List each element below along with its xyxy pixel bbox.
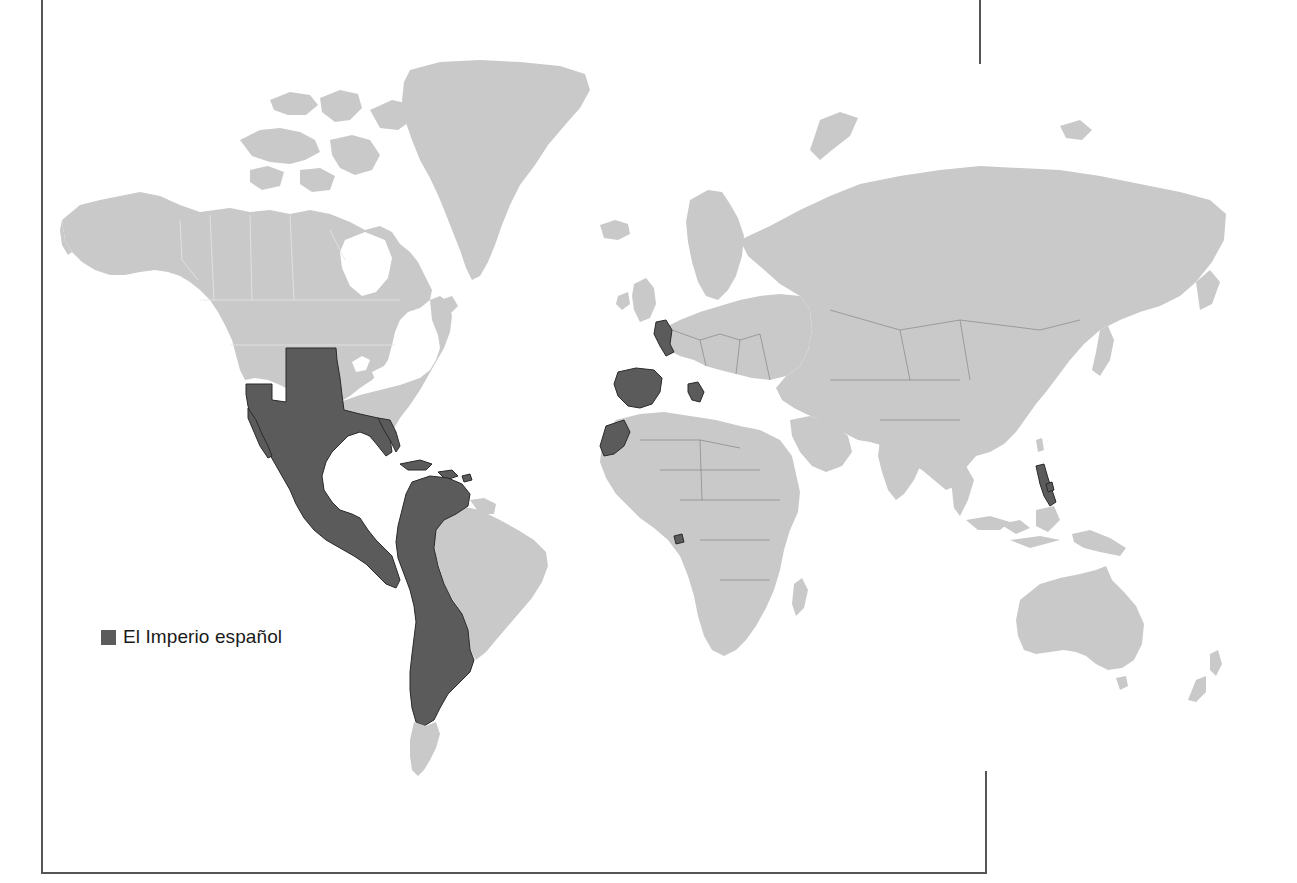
legend-label-spanish-empire: El Imperio español: [123, 626, 282, 648]
africa: [600, 412, 808, 656]
legend-swatch-spanish-empire: [101, 630, 116, 645]
map-legend: El Imperio español: [101, 626, 282, 648]
asia: [740, 112, 1226, 516]
empire-north-america: [246, 348, 400, 588]
oceania: [966, 506, 1222, 702]
philippines: [1036, 464, 1056, 506]
world-map: [0, 0, 1297, 883]
north-america: [60, 60, 630, 446]
south-america: [396, 476, 548, 776]
